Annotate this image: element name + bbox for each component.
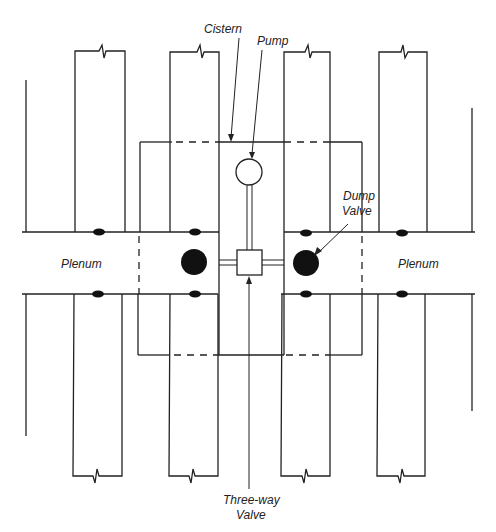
duct-bottom-2	[169, 294, 218, 483]
cistern-plenum-diagram: Cistern Pump Dump Valve Plenum Plenum Th…	[0, 0, 496, 532]
duct-top-4	[379, 45, 427, 232]
label-three-way-valve: Valve	[236, 508, 266, 522]
duct-top-1	[75, 45, 125, 232]
cistern-leader-line	[231, 38, 239, 138]
duct-bottom-4	[377, 294, 425, 483]
pump-icon	[236, 159, 262, 185]
outlet-top-4	[396, 230, 408, 237]
cistern-arrowhead-icon	[228, 134, 234, 142]
duct-bottom-1	[73, 294, 122, 483]
duct-top-3	[284, 45, 330, 355]
outlet-bottom-3	[300, 291, 312, 298]
three-way-arrowhead-icon	[246, 276, 252, 284]
three-way-valve-icon	[237, 250, 262, 275]
pump-arrowhead-icon	[249, 152, 255, 159]
duct-bottom-3	[281, 294, 330, 483]
label-pump: Pump	[257, 34, 289, 48]
label-plenum-right: Plenum	[398, 257, 439, 271]
outlet-top-2	[189, 229, 201, 236]
label-cistern: Cistern	[204, 22, 242, 36]
dump-valve-arrowhead-icon	[314, 247, 322, 256]
label-valve: Valve	[342, 204, 372, 218]
dump-valve-left-icon	[181, 249, 207, 275]
dump-valve-leader-line	[318, 224, 348, 253]
duct-top-2	[170, 45, 219, 355]
pump-assembly	[219, 159, 284, 275]
dump-valves	[181, 249, 319, 276]
pump-leader-line	[252, 50, 262, 154]
outlet-bottom-1	[92, 291, 104, 298]
labels: Cistern Pump Dump Valve Plenum Plenum Th…	[61, 22, 439, 522]
label-three-way: Three-way	[223, 493, 281, 507]
outlet-bottom-4	[396, 291, 408, 298]
outlet-top-1	[93, 229, 105, 236]
cistern	[138, 142, 362, 355]
label-dump: Dump	[343, 189, 375, 203]
outlet-bottom-2	[189, 291, 201, 298]
label-plenum-left: Plenum	[61, 257, 102, 271]
outlet-top-3	[300, 230, 312, 237]
